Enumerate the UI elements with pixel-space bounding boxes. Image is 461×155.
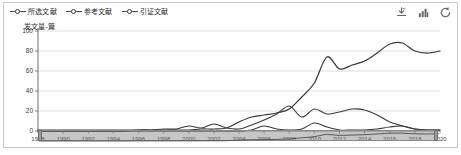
range-selector-scrollbar[interactable] xyxy=(38,130,438,141)
y-axis-tick-label: 60 xyxy=(13,67,33,74)
series-line-1 xyxy=(38,106,440,130)
y-axis-tick-label: 100 xyxy=(13,27,33,34)
y-axis-tick-label: 40 xyxy=(13,87,33,94)
y-axis-tick-label: 20 xyxy=(13,107,33,114)
y-axis-tick-label: 80 xyxy=(13,47,33,54)
range-selector-preview xyxy=(39,131,439,142)
plot-area: 0204060801001988199019921994199619982000… xyxy=(0,0,455,146)
range-handle-right[interactable] xyxy=(434,130,438,141)
chart-canvas xyxy=(0,0,455,146)
y-axis-tick-label: 0 xyxy=(13,127,33,134)
series-line-2 xyxy=(38,42,440,131)
range-handle-left[interactable] xyxy=(38,130,42,141)
citation-trend-chart-panel: 所选文献 参考文献 引证文献 xyxy=(0,0,461,155)
